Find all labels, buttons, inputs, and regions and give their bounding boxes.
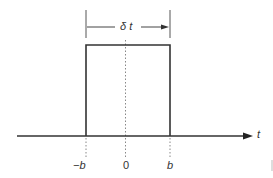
width-label: δ t xyxy=(120,21,132,32)
tick-label-zero: 0 xyxy=(123,160,129,171)
axis-label: t xyxy=(257,129,260,140)
tick-label-b: b xyxy=(167,160,173,171)
axis-arrow-icon xyxy=(243,133,253,140)
pulse-graphic xyxy=(0,0,273,178)
tick-label-neg-b: −b xyxy=(73,160,86,171)
pulse-outline xyxy=(86,45,170,136)
pulse-diagram: δ t t −b 0 b xyxy=(0,0,273,178)
dim-arrow-icon xyxy=(161,25,169,30)
